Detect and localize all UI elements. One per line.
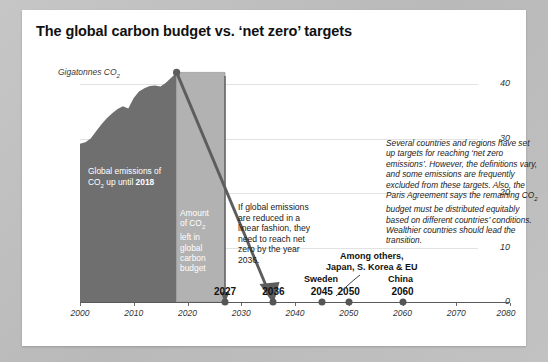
x-tick-2070: 2070 <box>447 308 466 318</box>
x-tick-2050: 2050 <box>339 308 358 318</box>
x-tickmark-2070 <box>456 303 457 306</box>
among-others-line1: Among others, <box>340 251 404 261</box>
side-note-part1: Several countries and regions have set u… <box>386 138 537 200</box>
budget-label-line1: Amount <box>180 208 209 218</box>
emissions-area-label-year: 2018 <box>136 177 155 187</box>
page-title: The global carbon budget vs. ‘net zero’ … <box>36 23 352 39</box>
among-others-leader-line <box>316 273 396 301</box>
emissions-area-label-line2a: CO <box>88 177 101 187</box>
peak-marker <box>173 69 180 76</box>
x-tick-2000: 2000 <box>71 308 90 318</box>
x-tickmark-2040 <box>295 303 296 306</box>
budget-label-line3: left in <box>180 232 200 242</box>
budget-label-line2: of CO <box>180 218 202 228</box>
side-note-sub: 2 <box>534 196 537 202</box>
x-tick-2040: 2040 <box>286 308 305 318</box>
marker-label-2036: 2036 <box>262 286 284 297</box>
x-tick-2030: 2030 <box>232 308 251 318</box>
budget-label-sub: 2 <box>202 224 205 230</box>
linear-reduction-note: If global emissions are reduced in a lin… <box>238 202 320 266</box>
emissions-area-label-line2b: up until <box>104 177 136 187</box>
x-tickmark-2020 <box>188 303 189 306</box>
x-tick-2020: 2020 <box>178 308 197 318</box>
marker-group-among-others: Among others, Japan, S. Korea & EU <box>326 251 418 273</box>
target-dot-2060[interactable] <box>399 299 406 306</box>
emissions-area-label-line1: Global emissions of <box>88 166 161 176</box>
x-tick-2010: 2010 <box>124 308 143 318</box>
emissions-area-label: Global emissions of CO2 up until 2018 <box>88 166 161 191</box>
x-tickmark-2080 <box>510 303 511 306</box>
x-tick-2060: 2060 <box>393 308 412 318</box>
budget-area-label: Amount of CO2 left in global carbon budg… <box>180 208 224 273</box>
among-others-line2: Japan, S. Korea & EU <box>326 262 418 272</box>
x-tickmark-2030 <box>241 303 242 306</box>
side-note-part2: budget must be distributed equitably bas… <box>386 204 532 245</box>
target-dot-2036[interactable] <box>270 299 277 306</box>
marker-label-2027: 2027 <box>214 286 236 297</box>
x-tick-2080: 2080 <box>497 308 516 318</box>
page-background: The global carbon budget vs. ‘net zero’ … <box>0 0 548 362</box>
net-zero-context-note: Several countries and regions have set u… <box>386 138 538 246</box>
chart-card: The global carbon budget vs. ‘net zero’ … <box>22 10 526 346</box>
x-tickmark-2010 <box>134 303 135 306</box>
x-tickmark-2000 <box>80 303 81 306</box>
target-dot-2027[interactable] <box>222 299 229 306</box>
budget-label-line5: carbon <box>180 253 206 263</box>
budget-label-line6: budget <box>180 263 206 273</box>
budget-label-line4: global <box>180 243 202 253</box>
